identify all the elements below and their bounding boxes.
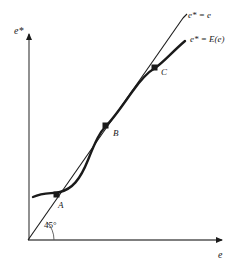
equilibrium-point-a-marker [54,192,60,198]
equilibrium-point-c-label: C [161,68,167,77]
expectations-equilibrium-diagram: e* e e* = e e* = E(e) A B C 45° [0,0,244,266]
equilibrium-point-b-marker [103,123,109,129]
identity-line-label: e* = e [188,11,211,20]
y-axis-label: e* [14,26,23,36]
identity-line [28,18,183,240]
x-axis-label: e [218,250,222,260]
expectation-function-label: e* = E(e) [190,35,225,44]
equilibrium-point-b-label: B [113,129,119,138]
equilibrium-point-c-marker [152,65,158,71]
equilibrium-point-a-label: A [58,201,64,210]
expectation-function-curve [33,41,185,197]
angle-label: 45° [44,221,57,230]
identity-line-leader [183,14,187,18]
